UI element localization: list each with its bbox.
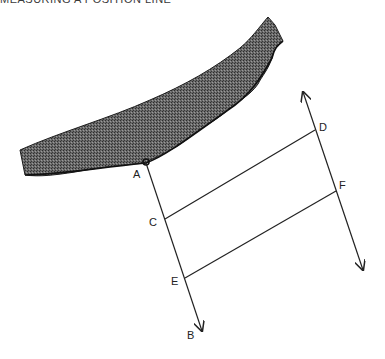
line-ab	[146, 163, 202, 331]
position-line-diagram: A B C D E F	[0, 0, 385, 359]
line-cd	[165, 130, 315, 219]
line-df	[303, 92, 363, 270]
label-b: B	[187, 329, 194, 341]
label-a: A	[133, 168, 141, 180]
label-f: F	[339, 179, 346, 191]
land-mass	[20, 17, 283, 176]
line-ef	[185, 191, 336, 278]
label-e: E	[171, 275, 178, 287]
label-c: C	[149, 216, 157, 228]
label-d: D	[319, 121, 327, 133]
